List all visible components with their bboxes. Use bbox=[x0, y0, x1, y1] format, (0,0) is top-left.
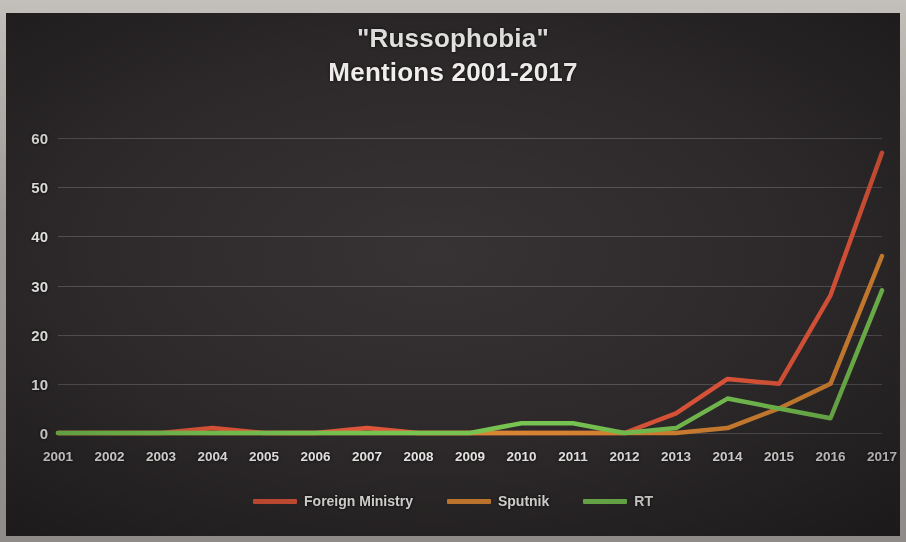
legend-swatch-rt bbox=[583, 499, 627, 504]
legend-item-foreign-ministry: Foreign Ministry bbox=[253, 493, 413, 509]
x-tick-label-2014: 2014 bbox=[712, 449, 742, 464]
series-lines bbox=[58, 138, 882, 433]
chart-legend: Foreign MinistrySputnikRT bbox=[6, 493, 900, 509]
legend-label: RT bbox=[634, 493, 653, 509]
x-tick-label-2007: 2007 bbox=[352, 449, 382, 464]
x-tick-label-2001: 2001 bbox=[43, 449, 73, 464]
x-tick-label-2009: 2009 bbox=[455, 449, 485, 464]
legend-item-rt: RT bbox=[583, 493, 653, 509]
chart-slide: "Russophobia" Mentions 2001-2017 0102030… bbox=[6, 13, 900, 536]
x-axis-tick-labels: 2001200220032004200520062007200820092010… bbox=[58, 449, 882, 473]
legend-label: Foreign Ministry bbox=[304, 493, 413, 509]
x-tick-label-2008: 2008 bbox=[403, 449, 433, 464]
y-tick-label-20: 20 bbox=[31, 326, 48, 343]
chart-title: "Russophobia" Mentions 2001-2017 bbox=[6, 21, 900, 89]
chart-title-line1: "Russophobia" bbox=[357, 23, 549, 53]
y-tick-label-10: 10 bbox=[31, 375, 48, 392]
x-tick-label-2003: 2003 bbox=[146, 449, 176, 464]
photo-frame: "Russophobia" Mentions 2001-2017 0102030… bbox=[0, 0, 906, 542]
x-tick-label-2010: 2010 bbox=[506, 449, 536, 464]
y-tick-label-60: 60 bbox=[31, 130, 48, 147]
plot-area: 0102030405060 20012002200320042005200620… bbox=[6, 109, 900, 459]
y-tick-label-40: 40 bbox=[31, 228, 48, 245]
x-tick-label-2004: 2004 bbox=[197, 449, 227, 464]
legend-swatch-sputnik bbox=[447, 499, 491, 504]
x-tick-label-2006: 2006 bbox=[300, 449, 330, 464]
chart-title-line2: Mentions 2001-2017 bbox=[6, 55, 900, 89]
legend-label: Sputnik bbox=[498, 493, 549, 509]
x-tick-label-2016: 2016 bbox=[815, 449, 845, 464]
y-tick-label-30: 30 bbox=[31, 277, 48, 294]
x-tick-label-2017: 2017 bbox=[867, 449, 897, 464]
series-line-foreign-ministry bbox=[58, 153, 882, 433]
legend-item-sputnik: Sputnik bbox=[447, 493, 549, 509]
series-line-rt bbox=[58, 290, 882, 433]
x-tick-label-2015: 2015 bbox=[764, 449, 794, 464]
x-tick-label-2013: 2013 bbox=[661, 449, 691, 464]
y-tick-label-0: 0 bbox=[40, 425, 48, 442]
plot-canvas: 0102030405060 bbox=[58, 138, 882, 433]
x-tick-label-2005: 2005 bbox=[249, 449, 279, 464]
x-tick-label-2012: 2012 bbox=[609, 449, 639, 464]
x-tick-label-2011: 2011 bbox=[558, 449, 587, 464]
legend-swatch-foreign-ministry bbox=[253, 499, 297, 504]
y-tick-label-50: 50 bbox=[31, 179, 48, 196]
x-tick-label-2002: 2002 bbox=[94, 449, 124, 464]
